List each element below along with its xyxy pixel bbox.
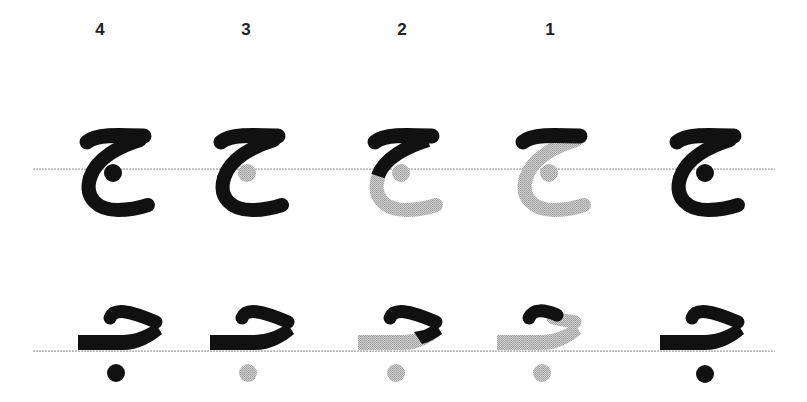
jeem-dot-icon (238, 164, 256, 182)
jeem-dot-icon (104, 164, 122, 182)
jeem-isolated-step1-glyph (523, 135, 584, 210)
jeem-stroke-order-diagram: 4 3 2 1 (0, 0, 807, 402)
jeem-dot-icon (107, 364, 125, 382)
jeem-initial-step2-glyph (358, 312, 442, 382)
jeem-dot-icon (540, 164, 558, 182)
jeem-dot-icon (387, 364, 405, 382)
jeem-isolated-final-glyph (677, 135, 738, 210)
glyph-canvas (0, 0, 807, 402)
baseline-guide-bottom (32, 351, 775, 352)
jeem-initial-step4-glyph (78, 312, 162, 382)
jeem-initial-final-glyph (660, 312, 744, 383)
jeem-initial-step1-glyph (497, 311, 581, 382)
jeem-dot-icon (239, 364, 257, 382)
jeem-dot-icon (533, 364, 551, 382)
jeem-dot-icon (696, 164, 714, 182)
jeem-isolated-step2-glyph (375, 135, 436, 210)
jeem-isolated-step3-glyph (221, 135, 282, 210)
jeem-initial-step3-glyph (210, 312, 294, 382)
jeem-isolated-step4-glyph (87, 135, 148, 210)
jeem-dot-icon (392, 164, 410, 182)
jeem-dot-icon (696, 365, 714, 383)
